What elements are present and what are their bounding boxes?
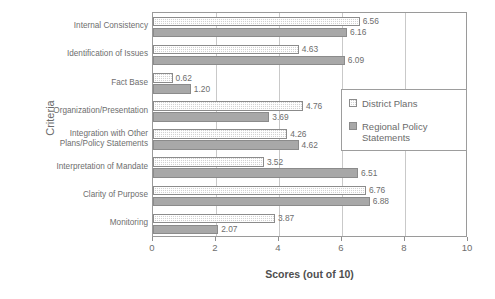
legend-item-label: Regional Policy Statements (362, 121, 462, 143)
x-tick-label: 0 (149, 242, 154, 253)
category-label: Fact Base (24, 78, 148, 88)
bar (153, 84, 191, 94)
bar-group: 3.526.51 (153, 154, 466, 182)
bar (153, 101, 303, 111)
bar (153, 28, 347, 38)
x-tick-label: 4 (275, 242, 280, 253)
x-tick-mark (467, 237, 468, 241)
legend-item-label: District Plans (362, 98, 417, 109)
bar-value-label: 4.63 (302, 45, 318, 54)
bar-value-label: 6.88 (373, 197, 389, 206)
x-tick-label: 2 (212, 242, 217, 253)
bar-group: 6.566.16 (153, 13, 466, 41)
bar (153, 17, 360, 27)
bar-value-label: 6.76 (369, 186, 385, 195)
x-tick-mark (278, 237, 279, 241)
bar (153, 214, 275, 224)
category-label: Identification of Issues (24, 49, 148, 59)
category-axis-labels: Internal ConsistencyIdentification of Is… (24, 12, 148, 237)
bar-value-label: 4.26 (290, 130, 306, 139)
category-label: Integration with OtherPlans/Policy State… (24, 129, 148, 148)
bar-value-label: 4.76 (306, 102, 322, 111)
category-label: Interpretation of Mandate (24, 162, 148, 172)
bar-value-label: 6.51 (361, 169, 377, 178)
legend-item-regional-policy-statements: Regional Policy Statements (349, 121, 462, 143)
x-tick-mark (215, 237, 216, 241)
x-tick-label: 10 (462, 242, 473, 253)
category-label: Monitoring (24, 218, 148, 228)
chart-legend: District Plans Regional Policy Statement… (341, 89, 467, 151)
bar (153, 129, 287, 139)
bar-value-label: 6.09 (348, 56, 364, 65)
category-label: Internal Consistency (24, 21, 148, 31)
x-tick-mark (341, 237, 342, 241)
bar (153, 45, 299, 55)
legend-swatch-icon (349, 99, 357, 107)
bar (153, 168, 358, 178)
bar-value-label: 3.87 (278, 214, 294, 223)
bar (153, 186, 366, 196)
bar (153, 197, 370, 207)
bar-value-label: 0.62 (176, 74, 192, 83)
bar (153, 112, 269, 122)
category-label: Organization/Presentation (24, 106, 148, 116)
x-tick-mark (152, 237, 153, 241)
bar-group: 3.872.07 (153, 210, 466, 238)
x-axis-title: Scores (out of 10) (152, 268, 467, 280)
bar-chart: Criteria Internal ConsistencyIdentificat… (0, 0, 495, 299)
bar (153, 73, 173, 83)
x-tick-label: 6 (338, 242, 343, 253)
x-axis-ticks: 0246810 (152, 237, 467, 253)
bar-group: 6.766.88 (153, 182, 466, 210)
bar (153, 225, 218, 235)
bar (153, 140, 299, 150)
legend-swatch-icon (349, 122, 357, 130)
bar-value-label: 3.69 (272, 113, 288, 122)
legend-item-district-plans: District Plans (349, 98, 417, 109)
bar-value-label: 6.56 (363, 17, 379, 26)
bar (153, 56, 345, 66)
bar-value-label: 1.20 (194, 85, 210, 94)
bar-value-label: 4.62 (302, 141, 318, 150)
x-tick-mark (404, 237, 405, 241)
x-tick-label: 8 (401, 242, 406, 253)
bar-value-label: 6.16 (350, 28, 366, 37)
bar-value-label: 2.07 (221, 225, 237, 234)
category-label: Clarity of Purpose (24, 190, 148, 200)
bar-group: 4.636.09 (153, 41, 466, 69)
bar (153, 157, 264, 167)
bar-value-label: 3.52 (267, 158, 283, 167)
